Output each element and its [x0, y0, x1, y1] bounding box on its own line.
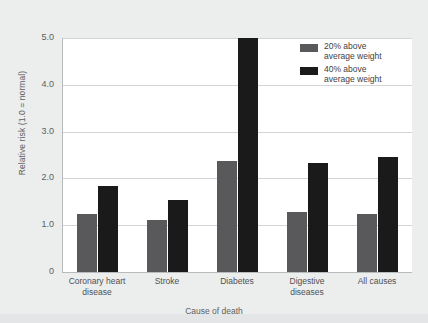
bar [98, 186, 118, 272]
x-axis-category-label: Coronary heart disease [62, 276, 132, 297]
y-axis-tick-label: 5.0 [14, 32, 54, 42]
bar [378, 157, 398, 272]
legend-label: 40% above average weight [324, 64, 382, 84]
legend-label: 20% above average weight [324, 41, 382, 61]
bar [147, 220, 167, 272]
x-axis-category-label: Digestive diseases [272, 276, 342, 297]
bar [308, 163, 328, 272]
legend-color-swatch [300, 44, 318, 52]
y-axis-tick-label: 1.0 [14, 219, 54, 229]
bar [77, 214, 97, 273]
bar [357, 214, 377, 272]
y-axis-tick-label: 2.0 [14, 172, 54, 182]
bar-chart-figure: Relative risk (1.0 = normal) 01.02.03.04… [0, 0, 428, 323]
legend-item: 40% above average weight [300, 64, 412, 84]
y-axis-tick-label: 4.0 [14, 79, 54, 89]
bar [287, 212, 307, 272]
bar [217, 161, 237, 272]
y-axis-tick-label: 0 [14, 266, 54, 276]
legend-item: 20% above average weight [300, 41, 412, 61]
x-axis-category-label: Diabetes [202, 276, 272, 287]
bar [168, 200, 188, 272]
x-axis-line [62, 272, 412, 273]
bottom-strip [0, 314, 428, 323]
y-axis-line [62, 38, 63, 273]
legend: 20% above average weight40% above averag… [300, 41, 412, 87]
bar [238, 38, 258, 272]
cropped-caption-sliver [0, 0, 428, 7]
legend-color-swatch [300, 67, 318, 75]
x-axis-category-label: Stroke [132, 276, 202, 287]
y-axis-tick-label: 3.0 [14, 126, 54, 136]
x-axis-category-label: All causes [342, 276, 412, 287]
